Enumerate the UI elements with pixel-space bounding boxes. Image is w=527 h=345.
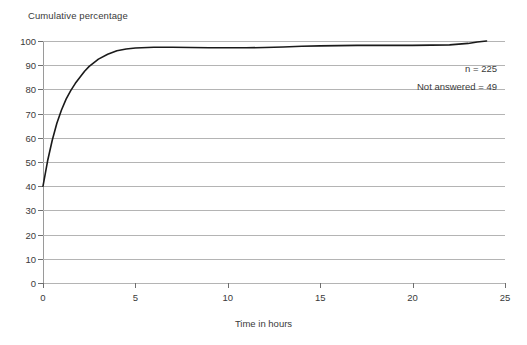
- x-axis-tick-mark: [228, 283, 229, 288]
- cumulative-percentage-curve: [43, 41, 505, 283]
- chart-container: Cumulative percentage 010203040506070809…: [0, 0, 527, 345]
- annotation-not-answered: Not answered = 49: [417, 81, 497, 92]
- x-axis-tick-label: 0: [40, 292, 45, 303]
- y-axis-tick-label: 0: [31, 278, 36, 289]
- y-axis-tick-label: 40: [25, 181, 36, 192]
- x-axis-tick-label: 15: [315, 292, 326, 303]
- y-axis-tick-label: 20: [25, 229, 36, 240]
- plot-area: [43, 41, 505, 283]
- x-axis-tick-mark: [43, 283, 44, 288]
- x-axis-title: Time in hours: [0, 318, 527, 329]
- x-axis-tick-label: 25: [500, 292, 511, 303]
- gridline: [43, 283, 505, 284]
- x-axis-tick-mark: [413, 283, 414, 288]
- y-axis-tick-label: 80: [25, 84, 36, 95]
- x-axis-tick-mark: [505, 283, 506, 288]
- annotation-sample-size: n = 225: [465, 63, 497, 74]
- x-axis-tick-mark: [135, 283, 136, 288]
- x-axis-tick-label: 5: [133, 292, 138, 303]
- y-axis-tick-label: 30: [25, 205, 36, 216]
- y-axis-tick-label: 10: [25, 253, 36, 264]
- y-axis-tick-label: 100: [20, 36, 36, 47]
- y-axis-tick-label: 50: [25, 157, 36, 168]
- y-axis-tick-label: 90: [25, 60, 36, 71]
- x-axis-tick-label: 10: [223, 292, 234, 303]
- x-axis-tick-mark: [320, 283, 321, 288]
- y-axis-tick-labels: 0102030405060708090100: [0, 41, 36, 283]
- y-axis-tick-label: 60: [25, 132, 36, 143]
- chart-title: Cumulative percentage: [28, 10, 128, 21]
- y-axis-tick-label: 70: [25, 108, 36, 119]
- x-axis-tick-label: 20: [407, 292, 418, 303]
